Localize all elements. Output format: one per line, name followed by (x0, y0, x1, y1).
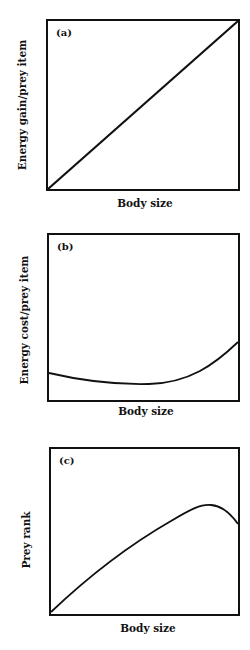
plot-area-b: (b) (47, 233, 240, 402)
y-axis-label-a: Energy gain/prey item (16, 40, 28, 171)
plot-area-a: (a) (46, 19, 240, 191)
curve-energy-cost (49, 235, 238, 400)
x-axis-label-a: Body size (117, 197, 173, 209)
y-axis-label-c: Prey rank (20, 511, 32, 568)
plot-area-c: (c) (49, 447, 240, 616)
y-axis-label-b: Energy cost/prey item (18, 256, 30, 385)
curve-energy-gain (48, 21, 238, 189)
x-axis-label-b: Body size (118, 405, 174, 417)
curve-prey-rank (51, 449, 238, 614)
x-axis-label-c: Body size (120, 622, 176, 634)
